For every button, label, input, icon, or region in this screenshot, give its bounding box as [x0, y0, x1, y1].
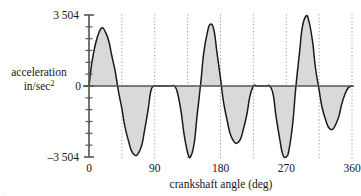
axes-group: [83, 15, 354, 157]
footer-mark: .: [2, 187, 6, 196]
y-axis-title-line1: acceleration: [11, 66, 67, 78]
acceleration-chart: 3 504 0 –3 504 090180270360 acceleration…: [0, 0, 361, 196]
x-tick-labels-group: 090180270360: [86, 162, 361, 174]
x-tick-label-180: 180: [212, 162, 230, 174]
chart-page: 3 504 0 –3 504 090180270360 acceleration…: [0, 0, 361, 196]
y-axis-title-line2: in/sec2: [24, 79, 55, 92]
x-tick-label-360: 360: [343, 162, 361, 174]
x-tick-label-270: 270: [278, 162, 296, 174]
x-tick-label-90: 90: [149, 162, 161, 174]
y-tick-label-zero: 0: [75, 80, 81, 92]
y-axis-title-unit: in/sec: [24, 80, 51, 92]
y-axis-title-exponent: 2: [50, 79, 54, 88]
y-axis-title: acceleration in/sec2: [11, 66, 67, 92]
x-tick-label-0: 0: [86, 162, 92, 174]
y-tick-label-bottom: –3 504: [46, 151, 79, 163]
x-axis-title: crankshaft angle (deg): [170, 178, 273, 191]
y-tick-label-top: 3 504: [53, 9, 79, 21]
